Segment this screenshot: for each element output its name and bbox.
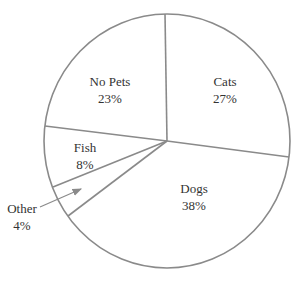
pct-other: 4% xyxy=(13,218,31,233)
pct-no-pets: 23% xyxy=(98,91,122,106)
pie-chart: Cats 27% Dogs 38% Other 4% Fish 8% No Pe… xyxy=(0,0,295,282)
label-fish: Fish xyxy=(74,140,97,155)
pct-dogs: 38% xyxy=(182,198,206,213)
label-cats: Cats xyxy=(213,74,236,89)
label-dogs: Dogs xyxy=(180,181,207,196)
pct-cats: 27% xyxy=(213,91,237,106)
pct-fish: 8% xyxy=(76,157,94,172)
label-other: Other xyxy=(7,201,37,216)
label-no-pets: No Pets xyxy=(90,74,131,89)
